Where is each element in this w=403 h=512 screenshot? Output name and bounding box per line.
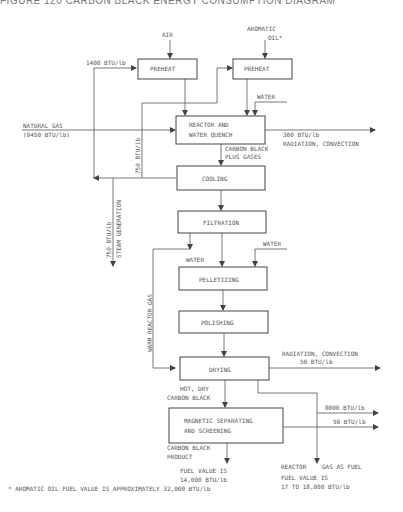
air-label: AIR xyxy=(162,31,173,38)
reactor-loss-label-2: RADIATION, CONVECTION xyxy=(283,140,359,147)
natural-gas-label-1: NATURAL GAS xyxy=(23,122,63,129)
carbon-gases-label-1: CARBON BLACK xyxy=(225,145,269,152)
recycle-750-label: 750 BTU/lb xyxy=(134,137,141,174)
reactor-fuel-label-1: FUEL VALUE IS xyxy=(281,474,328,481)
drying-loss-label-2: 50 BTU/lb xyxy=(300,358,333,365)
steam-label-2: STEAM GENERATION xyxy=(115,200,122,258)
magnetic-label-1: MAGNETIC SEPARATING xyxy=(184,417,253,424)
drying-label: DRYING xyxy=(209,366,231,373)
reactor-gas-label-2: GAS AS FUEL xyxy=(322,463,362,470)
fuel-value-label-1: FUEL VALUE IS xyxy=(180,467,227,474)
reactor-label-1: REACTOR AND xyxy=(189,121,229,128)
polishing-label: POLISHING xyxy=(201,319,234,326)
preheat-oil-label: PREHEAT xyxy=(244,65,270,72)
steam-label-1: 750 BTU/lb xyxy=(105,221,112,258)
warm-gas-label: WARM REACTOR GAS xyxy=(146,294,153,352)
filtration-label: FILTRATION xyxy=(203,219,240,226)
gas-8000-label: 8000 BTU/lb xyxy=(325,404,365,411)
preheat-energy-label: 1400 BTU/lb xyxy=(86,59,126,66)
carbon-gases-label-2: PLUS GASES xyxy=(225,153,262,160)
oil-label-2: OIL* xyxy=(268,34,283,41)
flow-diagram: AIR AROMATIC OIL* PREHEAT PREHEAT 1400 B… xyxy=(0,0,403,512)
hot-dry-label-2: CARBON BLACK xyxy=(167,394,211,401)
reactor-loss-label-1: 300 BTU/lb xyxy=(283,131,320,138)
cooling-label: COOLING xyxy=(202,175,228,182)
hot-dry-label-1: HOT, DRY xyxy=(180,385,209,392)
reactor-fuel-label-2: 17 TO 18,000 BTU/lb xyxy=(281,483,350,490)
gas-50-label: 50 BTU/lb xyxy=(333,418,366,425)
magnetic-separating-box xyxy=(169,408,283,443)
water-label-1: WATER xyxy=(257,93,275,100)
fuel-value-label-2: 14,000 BTU/lb xyxy=(180,476,227,483)
product-label-2: PRODUCT xyxy=(167,453,193,460)
oil-label-1: AROMATIC xyxy=(247,25,276,32)
magnetic-label-2: AND SCREENING xyxy=(184,427,231,434)
preheat-air-label: PREHEAT xyxy=(150,65,176,72)
drying-loss-label-1: RADIATION, CONVECTION xyxy=(282,350,358,357)
natural-gas-label-2: (9450 BTU/lb) xyxy=(23,131,70,138)
reactor-gas-label-1: REACTOR xyxy=(281,463,307,470)
product-label-1: CARBON BLACK xyxy=(167,444,211,451)
water-label-3: WATER xyxy=(263,240,281,247)
water-label-2: WATER xyxy=(186,256,204,263)
pelletizing-label: PELLETIZING xyxy=(199,276,239,283)
footnote: * AROMATIC OIL FUEL VALUE IS APPROXIMATE… xyxy=(8,485,211,492)
reactor-label-2: WATER QUENCH xyxy=(189,131,233,138)
